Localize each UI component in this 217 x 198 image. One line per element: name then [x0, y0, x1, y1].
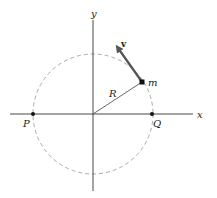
point-p-dot — [31, 112, 35, 116]
x-axis-label: x — [197, 109, 203, 120]
point-p-label: P — [22, 118, 30, 129]
radius-line — [93, 82, 142, 114]
y-axis-label: y — [90, 8, 97, 19]
point-q-dot — [150, 112, 154, 116]
point-q-label: Q — [153, 118, 161, 129]
circular-motion-diagram: y x P Q R m v — [0, 0, 217, 198]
radius-label: R — [108, 88, 117, 99]
velocity-label: v — [120, 39, 127, 49]
velocity-arrow — [118, 48, 142, 82]
mass-label: m — [148, 77, 157, 88]
mass-dot — [140, 80, 145, 85]
